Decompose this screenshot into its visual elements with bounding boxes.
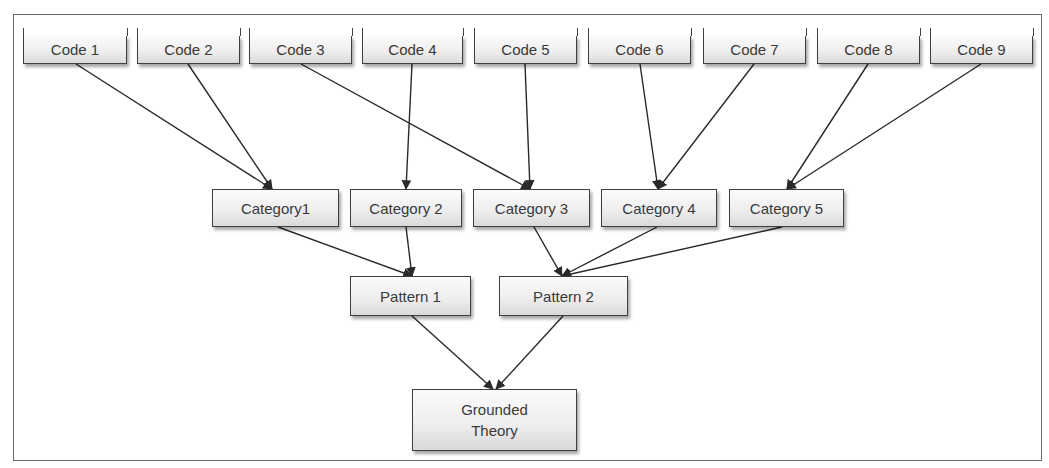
code-5-box: Code 5 [474, 36, 577, 64]
arrow-pat2-to-gt [496, 316, 563, 389]
code-7-box: Code 7 [703, 36, 806, 64]
grounded-theory-box: Grounded Theory [412, 389, 577, 451]
arrow-code8-to-cat5 [787, 64, 868, 189]
code-3-box: Code 3 [249, 36, 352, 64]
category-4-label: Category 4 [622, 200, 695, 217]
category-2-box: Category 2 [350, 189, 462, 227]
arrow-code6-to-cat4 [640, 64, 658, 189]
code-2-box: Code 2 [137, 36, 240, 64]
category-3-label: Category 3 [495, 200, 568, 217]
code-3-label: Code 3 [276, 41, 324, 58]
pattern-2-label: Pattern 2 [533, 288, 594, 305]
pattern-1-label: Pattern 1 [380, 288, 441, 305]
arrow-cat2-to-pat1 [406, 227, 412, 276]
pattern-1-box: Pattern 1 [350, 276, 471, 316]
arrow-code7-to-cat4 [658, 64, 754, 189]
category-5-label: Category 5 [750, 200, 823, 217]
code-8-box: Code 8 [817, 36, 920, 64]
code-2-label: Code 2 [164, 41, 212, 58]
category-3-box: Category 3 [473, 189, 590, 227]
code-4-label: Code 4 [388, 41, 436, 58]
code-9-box: Code 9 [930, 36, 1033, 64]
code-7-label: Code 7 [730, 41, 778, 58]
category-2-label: Category 2 [369, 200, 442, 217]
code-6-label: Code 6 [615, 41, 663, 58]
arrow-code9-to-cat5 [787, 64, 981, 189]
category-4-box: Category 4 [601, 189, 717, 227]
arrow-pat1-to-gt [412, 316, 493, 389]
arrow-cat1-to-pat1 [278, 227, 412, 276]
arrow-code4-to-cat2 [406, 64, 412, 189]
category-1-box: Category1 [212, 189, 339, 227]
arrow-cat5-to-pat2 [562, 227, 782, 276]
code-9-label: Code 9 [957, 41, 1005, 58]
pattern-2-box: Pattern 2 [499, 276, 628, 316]
arrow-code3-to-cat3 [301, 64, 530, 189]
arrow-cat3-to-pat2 [534, 227, 562, 276]
code-1-box: Code 1 [23, 36, 127, 64]
arrow-code1-to-cat1 [76, 64, 272, 189]
code-1-label: Code 1 [51, 41, 99, 58]
arrow-code2-to-cat1 [188, 64, 272, 189]
category-5-box: Category 5 [729, 189, 844, 227]
code-4-box: Code 4 [362, 36, 463, 64]
arrow-cat4-to-pat2 [562, 227, 657, 276]
code-6-box: Code 6 [588, 36, 691, 64]
grounded-theory-label: Grounded Theory [461, 399, 528, 441]
code-8-label: Code 8 [844, 41, 892, 58]
code-5-label: Code 5 [501, 41, 549, 58]
category-1-label: Category1 [241, 200, 310, 217]
arrow-code5-to-cat3 [525, 64, 530, 189]
